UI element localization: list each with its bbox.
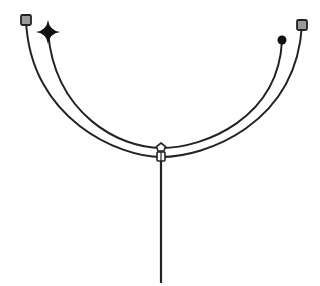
outer-arc-start-square-handle[interactable] (21, 15, 31, 25)
inner-arc-end-dot-handle[interactable] (278, 36, 287, 45)
outer-arc-end-square-handle[interactable] (297, 20, 307, 30)
diagram-canvas (0, 0, 320, 286)
